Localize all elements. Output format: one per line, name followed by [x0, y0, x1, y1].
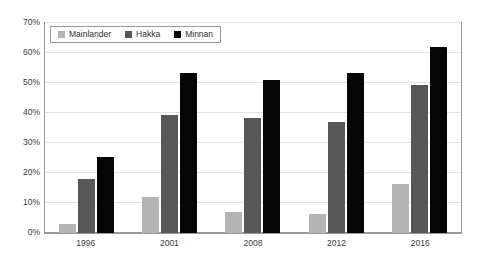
bar-minnan-2001 [180, 73, 197, 234]
bar-hakka-2016 [411, 85, 428, 234]
x-axis-label-2012: 2012 [299, 236, 374, 252]
bar-hakka-2001 [161, 115, 178, 234]
x-axis-tick-labels: 19962001200820122016 [44, 236, 462, 252]
legend-item-hakka[interactable]: Hakka [125, 30, 160, 39]
bar-hakka-1996 [78, 179, 95, 233]
bar-mainlander-2001 [142, 197, 159, 233]
legend-label: Minnan [185, 30, 213, 39]
legend-label: Hakka [136, 30, 160, 39]
bar-group-2001 [132, 23, 207, 233]
chart-legend: MainlanderHakkaMinnan [50, 26, 221, 43]
bar-groups [45, 23, 461, 233]
bar-minnan-2012 [347, 73, 364, 234]
bar-group-2016 [382, 23, 457, 233]
y-axis-tick-label: 30% [23, 138, 40, 147]
legend-swatch-icon [174, 31, 181, 38]
bar-mainlander-1996 [59, 224, 76, 233]
x-axis-label-2001: 2001 [132, 236, 207, 252]
legend-swatch-icon [58, 31, 65, 38]
legend-label: Mainlander [69, 30, 111, 39]
bar-chart: 0%10%20%30%40%50%60%70% 1996200120082012… [0, 0, 478, 258]
legend-swatch-icon [125, 31, 132, 38]
y-axis-tick-label: 10% [23, 198, 40, 207]
x-axis-label-1996: 1996 [48, 236, 123, 252]
bar-mainlander-2012 [309, 214, 326, 234]
bar-minnan-1996 [97, 157, 114, 233]
y-axis-tick-label: 50% [23, 78, 40, 87]
y-axis-tick-label: 40% [23, 108, 40, 117]
bar-mainlander-2016 [392, 184, 409, 234]
plot-area: 0%10%20%30%40%50%60%70% [44, 22, 462, 234]
bar-mainlander-2008 [225, 212, 242, 233]
bar-hakka-2008 [244, 118, 261, 234]
bar-minnan-2016 [430, 47, 447, 233]
y-axis-tick-label: 20% [23, 168, 40, 177]
y-axis-tick-label: 70% [23, 18, 40, 27]
bar-group-1996 [49, 23, 124, 233]
legend-item-minnan[interactable]: Minnan [174, 30, 213, 39]
bar-hakka-2012 [328, 122, 345, 233]
x-axis-label-2008: 2008 [215, 236, 290, 252]
x-axis-label-2016: 2016 [383, 236, 458, 252]
bar-group-2008 [216, 23, 291, 233]
bar-minnan-2008 [263, 80, 280, 233]
y-axis-tick-label: 0% [28, 228, 40, 237]
y-axis-tick-label: 60% [23, 48, 40, 57]
bar-group-2012 [299, 23, 374, 233]
legend-item-mainlander[interactable]: Mainlander [58, 30, 111, 39]
